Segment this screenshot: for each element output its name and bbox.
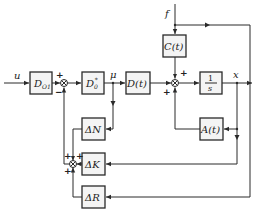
block-delta-k-label: ΔK xyxy=(84,159,100,170)
sum2-plus-left-sign: + xyxy=(163,87,171,97)
block-c-t-label: C(t) xyxy=(164,41,184,52)
sum3-plus-sign-2: + xyxy=(76,151,84,161)
sum-junction-1 xyxy=(61,80,68,87)
x-down-arrow xyxy=(235,135,240,140)
sum2-plus-top-sign: + xyxy=(180,68,188,78)
block-delta-r-label: ΔR xyxy=(84,192,100,203)
sum3-plus-sign-3: + xyxy=(64,166,72,176)
signal-mu-label: μ xyxy=(110,69,117,80)
sum-junction-2 xyxy=(172,80,179,87)
x-to-a-t-line xyxy=(224,83,237,129)
sum1-plus-sign: + xyxy=(56,70,64,80)
block-d-0-star-label: D0* xyxy=(85,76,98,90)
block-delta-n-label: ΔN xyxy=(84,124,102,135)
block-a-t-label: A(t) xyxy=(200,124,220,135)
signal-x-label: x xyxy=(233,69,239,80)
block-diagram: u DO1 + − D0* μ D(t) + + 1 s x f C(t) xyxy=(0,0,257,213)
f-branch-arrow xyxy=(205,23,210,28)
integrator-denominator: s xyxy=(208,84,212,93)
signal-u-label: u xyxy=(14,70,20,81)
a-t-to-sum2-line xyxy=(175,88,200,130)
sum1-minus-sign: − xyxy=(55,87,63,97)
delta-r-to-sum3 xyxy=(73,168,82,198)
integrator-numerator: 1 xyxy=(208,74,213,83)
sum3-plus-sign-1: + xyxy=(64,151,72,161)
mu-to-delta-n-line xyxy=(106,83,113,129)
block-d-t-label: D(t) xyxy=(126,78,147,89)
signal-f-label: f xyxy=(164,8,171,19)
mu-down-arrow xyxy=(111,101,116,106)
